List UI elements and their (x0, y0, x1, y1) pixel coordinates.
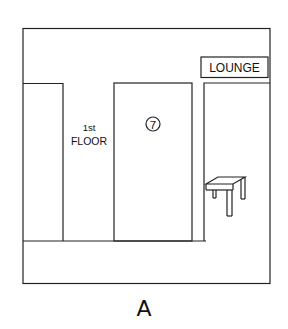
floor-label-line1: 1st (83, 122, 96, 133)
left-wall-panel (23, 84, 63, 242)
lounge-wall (204, 83, 270, 241)
caption: A (0, 296, 288, 321)
lounge-sign-text: LOUNGE (209, 61, 260, 75)
elevator-door (114, 83, 192, 241)
floor-label-line2: FLOOR (71, 135, 108, 147)
table-icon (206, 177, 245, 216)
door-number: 7 (150, 119, 156, 131)
floor-illustration: LOUNGE 1st FLOOR 7 (0, 0, 288, 329)
